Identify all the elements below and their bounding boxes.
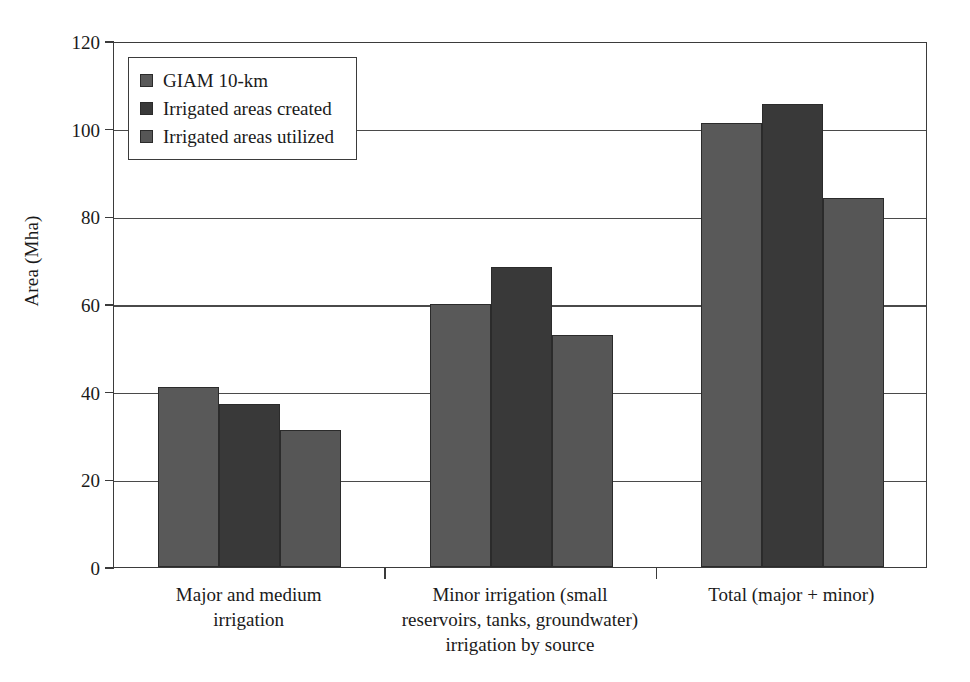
legend-swatch-icon	[140, 130, 153, 143]
bar	[823, 198, 884, 568]
legend-item-label: GIAM 10-km	[163, 71, 268, 90]
y-axis-tick-mark	[105, 392, 114, 394]
y-axis-tick-label: 100	[40, 120, 100, 139]
x-axis-group-tick	[656, 568, 658, 579]
legend-item: Irrigated areas created	[140, 99, 334, 118]
y-axis-tick-mark	[105, 41, 114, 43]
bar	[762, 104, 823, 567]
bar	[701, 123, 762, 567]
y-axis-tick-labels: 020406080100120	[38, 42, 100, 568]
y-axis-tick-label: 20	[40, 471, 100, 490]
y-axis-tick-mark	[105, 304, 114, 306]
y-axis-tick-label: 0	[40, 559, 100, 578]
legend-item: Irrigated areas utilized	[140, 127, 334, 146]
bar	[552, 335, 613, 567]
legend: GIAM 10-kmIrrigated areas createdIrrigat…	[128, 57, 357, 160]
y-axis-tick-mark	[105, 567, 114, 569]
bar	[430, 304, 491, 567]
y-axis-tick-label: 80	[40, 208, 100, 227]
bar	[219, 404, 280, 567]
y-axis-tick-mark	[105, 129, 114, 131]
legend-swatch-icon	[140, 74, 153, 87]
bar	[280, 430, 341, 567]
y-axis-tick-mark	[105, 217, 114, 219]
x-axis-category-label: Major and medium irrigation	[103, 582, 394, 632]
legend-item-label: Irrigated areas created	[163, 99, 332, 118]
bar	[491, 267, 552, 567]
y-axis-tick-label: 120	[40, 33, 100, 52]
y-axis-tick-label: 40	[40, 383, 100, 402]
y-axis-tick-label: 60	[40, 296, 100, 315]
bar	[158, 387, 219, 567]
legend-item: GIAM 10-km	[140, 71, 334, 90]
y-axis-tick-mark	[105, 480, 114, 482]
x-axis-group-tick	[384, 568, 386, 579]
bar-chart: Area (Mha) 020406080100120 Major and med…	[0, 0, 970, 682]
x-axis-category-label: Total (major + minor)	[646, 582, 937, 607]
legend-swatch-icon	[140, 102, 153, 115]
x-axis-category-label: Minor irrigation (small reservoirs, tank…	[374, 582, 665, 657]
legend-item-label: Irrigated areas utilized	[163, 127, 334, 146]
